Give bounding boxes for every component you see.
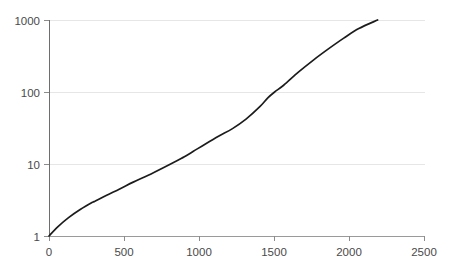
x-tick-label-2500: 2500 xyxy=(411,246,437,258)
y-tick-label-1000: 1000 xyxy=(14,15,40,27)
y-tick-marks xyxy=(44,21,49,237)
x-tick-label-1500: 1500 xyxy=(261,246,287,258)
y-tick-label-10: 10 xyxy=(27,159,40,171)
series-line-curve xyxy=(49,20,378,236)
x-tick-labels: 0 500 1000 1500 2000 2500 xyxy=(46,246,437,258)
y-tick-label-1: 1 xyxy=(34,231,40,243)
y-tick-labels: 1000 100 10 1 xyxy=(14,15,40,243)
axes xyxy=(49,20,425,237)
x-tick-label-500: 500 xyxy=(114,246,133,258)
x-tick-label-0: 0 xyxy=(46,246,52,258)
chart-container: 1000 100 10 1 0 500 1000 1500 2000 2500 xyxy=(0,0,456,265)
log-line-chart: 1000 100 10 1 0 500 1000 1500 2000 2500 xyxy=(0,0,456,265)
x-tick-label-2000: 2000 xyxy=(336,246,362,258)
gridlines xyxy=(49,21,425,165)
x-tick-label-1000: 1000 xyxy=(186,246,212,258)
series-group xyxy=(49,20,378,236)
y-tick-label-100: 100 xyxy=(21,87,40,99)
